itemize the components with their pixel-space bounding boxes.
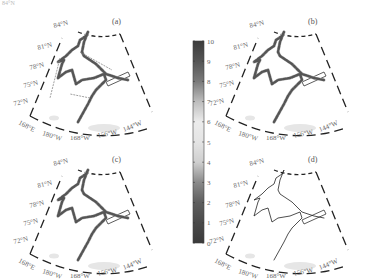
- lat-label: 81°N: [233, 41, 249, 52]
- lon-label: 168°W: [266, 272, 286, 279]
- land-patch: [49, 116, 59, 121]
- colorbar-tick-label: 5: [207, 139, 211, 147]
- lon-label: 144°W: [318, 257, 340, 272]
- lon-label: 180°W: [237, 267, 259, 279]
- drift-arrow: [70, 94, 90, 98]
- lat-label: 75°N: [23, 217, 39, 228]
- colorbar-tick-label: 6: [207, 118, 211, 126]
- lat-label: 84°N: [249, 19, 265, 30]
- lat-label: 81°N: [37, 179, 53, 190]
- lon-label: 168°E: [17, 257, 36, 272]
- map-frame-right: [316, 172, 348, 250]
- map-panel-a: 84°N81°N78°N75°N72°N168°E180°W168°W156°W…: [0, 0, 194, 140]
- lat-label: 78°N: [29, 61, 45, 72]
- lon-label: 168°E: [213, 257, 232, 272]
- map-frame-top: [274, 170, 316, 175]
- panel-label: (b): [308, 17, 318, 26]
- colorbar-tick-label: 7: [207, 98, 211, 106]
- lat-label: 84°N: [53, 19, 69, 30]
- ship-track: [58, 32, 128, 122]
- lat-label: 81°N: [37, 41, 53, 52]
- colorbar-tick-label: 8: [207, 78, 211, 86]
- map-frame-right: [120, 34, 152, 112]
- land-patch: [245, 116, 255, 121]
- lat-label: 75°N: [23, 79, 39, 90]
- map-panel-b: 84°N81°N78°N75°N72°N168°E180°W168°W156°W…: [230, 0, 388, 140]
- lat-label: 84°N: [249, 157, 265, 168]
- lat-label: 81°N: [233, 179, 249, 190]
- colorbar-tick-label: 1: [207, 219, 211, 227]
- panel-label: (c): [112, 155, 121, 164]
- panel-label: (a): [112, 17, 121, 26]
- lat-label: 84°N: [53, 157, 69, 168]
- lon-label: 144°W: [318, 119, 340, 134]
- lon-label: 168°W: [70, 272, 90, 279]
- map-panel-d: 84°N81°N78°N75°N72°N168°E180°W168°W156°W…: [230, 140, 388, 279]
- colorbar-tick-label: 0: [207, 240, 211, 248]
- channel-outline: [302, 210, 326, 224]
- lon-label: 168°E: [17, 119, 36, 134]
- colorbar-tick-label: 10: [207, 39, 215, 46]
- land-patch: [245, 254, 255, 259]
- lat-label: 78°N: [29, 199, 45, 210]
- land-patch: [49, 254, 59, 259]
- colorbar-tick-label: 9: [207, 58, 211, 66]
- colorbar: 012345678910: [191, 39, 231, 249]
- lon-label: 144°W: [122, 257, 144, 272]
- ship-track: [58, 170, 128, 260]
- map-frame-right: [120, 172, 152, 250]
- lon-label: 144°W: [122, 119, 144, 134]
- lat-label: 72°N: [13, 97, 29, 108]
- panel-label: (d): [308, 155, 318, 164]
- ship-track: [254, 32, 324, 122]
- colorbar-tick-label: 3: [207, 179, 211, 187]
- colorbar-tick-label: 2: [207, 199, 211, 207]
- map-panel-c: 84°N81°N78°N75°N72°N168°E180°W168°W156°W…: [0, 140, 194, 279]
- lat-label: 72°N: [13, 235, 29, 246]
- map-group: 84°N81°N78°N75°N72°N168°E180°W168°W156°W…: [13, 155, 152, 279]
- map-frame-right: [316, 34, 348, 112]
- lon-label: 180°W: [41, 267, 63, 279]
- colorbar-tick-label: 4: [207, 159, 211, 167]
- map-group: 84°N81°N78°N75°N72°N168°E180°W168°W156°W…: [13, 17, 152, 143]
